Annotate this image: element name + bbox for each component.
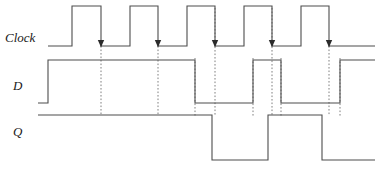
signal-label-d: D: [12, 78, 23, 93]
waveform-q: [38, 115, 375, 160]
timing-diagram-canvas: Clock D Q: [0, 0, 384, 169]
waveform-d: [38, 60, 375, 103]
signal-label-clock: Clock: [5, 30, 36, 45]
timing-diagram: Clock D Q: [0, 0, 384, 169]
marker-line-group: [101, 8, 340, 116]
signal-label-q: Q: [13, 124, 23, 139]
waveform-group: [38, 6, 375, 160]
